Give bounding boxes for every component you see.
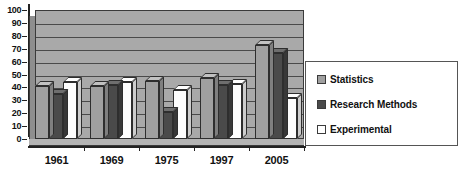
legend-swatch-icon <box>317 75 326 84</box>
legend-item-research-methods: Research Methods <box>317 98 417 110</box>
legend-swatch-icon <box>317 125 326 134</box>
x-tick-mark <box>194 146 195 151</box>
bar-side <box>159 76 164 139</box>
bar-side <box>283 48 288 139</box>
y-tick-mark <box>22 75 27 76</box>
bar-face <box>145 81 159 139</box>
bar-group-1969 <box>90 10 132 139</box>
y-tick-mark <box>22 23 27 24</box>
y-tick-mark <box>22 49 27 50</box>
y-tick-label: 70 <box>12 44 21 53</box>
bar-side <box>214 74 219 139</box>
bar-group-1997 <box>200 10 242 139</box>
legend-label: Research Methods <box>330 99 417 110</box>
bar-side <box>118 80 123 139</box>
legend-item-statistics: Statistics <box>317 73 373 85</box>
chart-legend: Statistics Research Methods Experimental <box>305 61 458 146</box>
x-tick-label: 1997 <box>194 152 249 170</box>
bar-side <box>49 81 54 139</box>
x-tick-mark <box>249 146 250 151</box>
y-tick-label: 50 <box>12 70 21 79</box>
y-tick-label: 20 <box>12 109 21 118</box>
y-tick-mark <box>22 113 27 114</box>
y-tick-mark <box>22 62 27 63</box>
y-tick-label: 0 <box>16 135 21 144</box>
bar-series-layer <box>29 10 304 146</box>
y-tick-label: 90 <box>12 18 21 27</box>
bar-face <box>35 86 49 139</box>
legend-item-experimental: Experimental <box>317 123 392 135</box>
bar-side <box>187 85 192 139</box>
bar-face <box>200 78 214 139</box>
bar-statistics-1997 <box>200 78 214 139</box>
legend-label: Experimental <box>330 124 392 135</box>
x-tick-mark <box>304 146 305 151</box>
x-tick-mark <box>84 146 85 151</box>
bar-group-2005 <box>255 10 297 139</box>
x-tick-label: 1975 <box>139 152 194 170</box>
y-axis: 1009080706050403020100 <box>0 4 29 144</box>
bar-side <box>242 79 247 139</box>
x-axis-line <box>28 146 306 148</box>
bar-face <box>90 86 104 139</box>
bar-side <box>132 78 137 139</box>
bar-group-1975 <box>145 10 187 139</box>
x-axis-labels: 19611969197519972005 <box>29 152 304 170</box>
legend-swatch-icon <box>317 100 326 109</box>
legend-label: Statistics <box>330 74 373 85</box>
x-tick-label: 1969 <box>84 152 139 170</box>
y-tick-mark <box>22 10 27 11</box>
chart-figure: 1009080706050403020100 19611969197519972… <box>0 0 466 184</box>
y-tick-label: 40 <box>12 83 21 92</box>
bar-statistics-1975 <box>145 81 159 139</box>
x-tick-mark <box>139 146 140 151</box>
bar-group-1961 <box>35 10 77 139</box>
y-tick-label: 10 <box>12 122 21 131</box>
bar-side <box>173 107 178 139</box>
bar-side <box>228 80 233 139</box>
bar-side <box>104 81 109 139</box>
x-tick-label: 1961 <box>29 152 84 170</box>
y-tick-label: 100 <box>7 6 21 15</box>
y-tick-mark <box>22 87 27 88</box>
bar-side <box>269 40 274 139</box>
y-tick-mark <box>22 36 27 37</box>
bar-statistics-1961 <box>35 86 49 139</box>
y-tick-label: 80 <box>12 31 21 40</box>
y-tick-mark <box>22 126 27 127</box>
bar-statistics-2005 <box>255 45 269 139</box>
bar-side <box>297 93 302 139</box>
y-tick-label: 60 <box>12 57 21 66</box>
y-tick-mark <box>22 139 27 140</box>
bar-face <box>255 45 269 139</box>
y-tick-label: 30 <box>12 96 21 105</box>
x-tick-label: 2005 <box>249 152 304 170</box>
bar-side <box>77 78 82 139</box>
bar-statistics-1969 <box>90 86 104 139</box>
y-tick-mark <box>22 100 27 101</box>
bar-side <box>63 89 68 139</box>
